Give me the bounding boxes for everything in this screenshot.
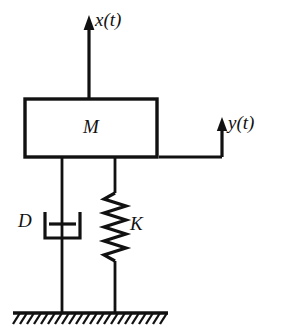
damper-label: D xyxy=(18,211,32,230)
x-arrow-head-icon xyxy=(84,15,95,30)
spring-element xyxy=(104,157,126,313)
spring-label: K xyxy=(130,214,143,233)
x-displacement-arrow xyxy=(84,15,95,99)
damper-element xyxy=(45,157,80,313)
mass-label: M xyxy=(83,117,99,136)
y-arrow-head-icon xyxy=(217,117,227,131)
ground-support xyxy=(13,313,168,324)
x-displacement-label: x(t) xyxy=(95,10,121,29)
mechanical-system-diagram: x(t) y(t) M D K xyxy=(0,0,284,335)
y-displacement-arrow xyxy=(159,117,227,157)
y-displacement-label: y(t) xyxy=(228,113,254,132)
diagram-canvas xyxy=(0,0,284,335)
spring-coil xyxy=(104,193,126,261)
